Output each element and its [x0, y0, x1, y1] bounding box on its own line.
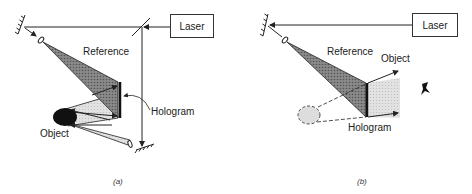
panel-a	[15, 15, 170, 153]
mirror-icon	[15, 15, 25, 34]
virtual-image	[298, 106, 320, 124]
caption-b: (b)	[357, 177, 367, 186]
illumination-beam	[66, 123, 130, 145]
reconstructed-wave	[368, 78, 400, 118]
panel-b	[260, 14, 430, 124]
reference-label: Reference	[327, 46, 373, 57]
hologram-label: Hologram	[348, 122, 391, 133]
caption-a: (a)	[113, 177, 123, 186]
object-label: Object	[381, 53, 410, 64]
hologram-label: Hologram	[151, 106, 194, 117]
mirror-icon	[135, 144, 154, 153]
laser-box-a: Laser	[170, 14, 214, 38]
beam-line	[268, 26, 282, 37]
holography-diagram	[0, 0, 472, 194]
laser-box-b: Laser	[412, 13, 458, 37]
callout-arrow	[124, 95, 150, 110]
lens-icon	[127, 140, 133, 148]
object-shape	[53, 108, 77, 126]
object-label: Object	[40, 128, 69, 139]
laser-label: Laser	[179, 21, 204, 32]
reference-label: Reference	[83, 46, 129, 57]
observer-eye-icon	[421, 82, 430, 95]
mirror-icon	[260, 14, 268, 36]
laser-label: Laser	[422, 20, 447, 31]
beam-line	[25, 28, 36, 36]
